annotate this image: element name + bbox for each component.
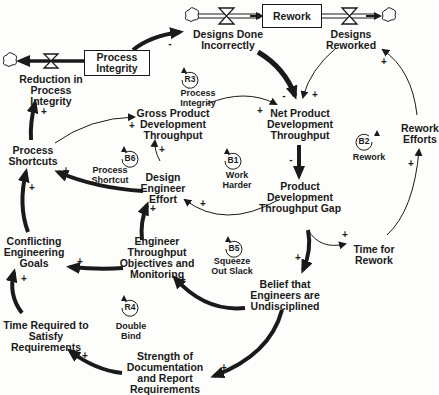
polarity-sign: + xyxy=(381,56,387,67)
polarity-sign: + xyxy=(312,89,318,100)
polarity-sign: + xyxy=(257,105,263,116)
flow-reduction-in-process-integrity: Reduction in Process Integrity xyxy=(19,74,83,107)
var-time-required-to-satisfy-requirements: Time Required to Satisfy Requirements xyxy=(3,320,89,353)
loop-name-B5: Squeeze Out Slack xyxy=(211,256,253,276)
polarity-sign: + xyxy=(159,144,165,155)
stock-rework: Rework xyxy=(262,4,322,28)
var-process-shortcuts: Process Shortcuts xyxy=(8,145,57,167)
loop-name-R3: Process Integrity xyxy=(180,88,216,108)
flow-designs-reworked: Designs Reworked xyxy=(326,29,376,51)
polarity-sign: + xyxy=(150,203,156,214)
polarity-sign: + xyxy=(129,120,135,131)
polarity-sign: + xyxy=(180,274,186,285)
polarity-sign: - xyxy=(289,154,292,165)
loop-name-B1: Work Harder xyxy=(222,170,251,190)
outflow-pipe-rework xyxy=(322,8,396,24)
polarity-sign: + xyxy=(221,362,227,373)
cloud-sink-icon xyxy=(382,8,395,22)
var-rework-efforts: Rework Efforts xyxy=(401,123,439,145)
valve-icon xyxy=(219,8,234,24)
loop-id-B6: B6 xyxy=(125,153,136,163)
inflow-pipe-rework xyxy=(185,8,262,24)
polarity-sign: + xyxy=(41,106,47,117)
polarity-sign: - xyxy=(168,38,171,49)
var-gross-product-development-throughput: Gross Product Development Throughput xyxy=(137,108,210,141)
stock-process-integrity: Process Integrity xyxy=(84,50,150,76)
flow-designs-done-incorrectly: Designs Done Incorrectly xyxy=(193,29,263,51)
polarity-sign: - xyxy=(282,90,285,101)
loop-id-R3: R3 xyxy=(185,74,196,84)
polarity-sign: + xyxy=(77,256,83,267)
polarity-sign: + xyxy=(63,165,69,176)
polarity-sign: + xyxy=(21,273,27,284)
valve-icon xyxy=(342,8,357,24)
loop-id-R4: R4 xyxy=(125,302,136,312)
polarity-sign: + xyxy=(82,350,88,361)
cloud-source-icon xyxy=(185,8,198,22)
var-net-product-development-throughput: Net Product Development Throughput xyxy=(267,108,333,141)
var-strength-of-documentation: Strength of Documentation and Report Req… xyxy=(127,351,203,395)
loop-name-B6: Process Shortcut xyxy=(92,165,129,185)
loop-id-B2: B2 xyxy=(359,136,370,146)
polarity-sign: + xyxy=(29,182,35,193)
polarity-sign: + xyxy=(342,229,348,240)
var-product-development-throughput-gap: Product Development Throughput Gap xyxy=(259,181,341,214)
cloud-sink-icon xyxy=(3,53,16,67)
var-time-for-rework: Time for Rework xyxy=(353,244,394,266)
outflow-pipe-process-integrity xyxy=(3,53,84,68)
polarity-sign: + xyxy=(408,158,414,169)
var-belief-engineers-undisciplined: Belief that Engineers are Undisciplined xyxy=(250,279,319,312)
polarity-sign: + xyxy=(200,198,206,209)
polarity-sign: + xyxy=(295,252,301,263)
var-conflicting-engineering-goals: Conflicting Engineering Goals xyxy=(4,236,65,269)
loop-name-R4: Double Bind xyxy=(116,321,147,341)
loop-name-B2: Rework xyxy=(353,152,386,162)
loop-id-B1: B1 xyxy=(228,155,239,165)
loop-id-B5: B5 xyxy=(229,243,240,253)
var-design-engineer-effort: Design Engineer Effort xyxy=(141,172,186,205)
